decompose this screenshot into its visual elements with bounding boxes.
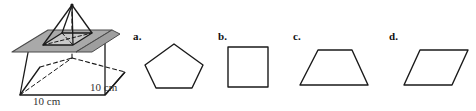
choice-d-label[interactable]: d. (389, 31, 398, 42)
figure-canvas (0, 0, 476, 111)
choice-b-label[interactable]: b. (218, 31, 227, 42)
dimension-label-base-edge: 10 cm (33, 96, 60, 107)
choice-d-parallelogram-shape[interactable] (404, 50, 468, 85)
base-hidden-diagonal (20, 58, 72, 95)
choice-a-pentagon-shape[interactable] (145, 44, 203, 88)
choice-c-trapezoid-shape[interactable] (300, 50, 368, 85)
choice-a-label[interactable]: a. (133, 31, 142, 42)
choice-c-label[interactable]: c. (293, 31, 301, 42)
dimension-label-right-edge: 10 cm (90, 82, 117, 93)
choice-b-square-shape[interactable] (228, 47, 268, 87)
apex-point (70, 3, 73, 6)
geometry-question-figure: 10 cm 10 cm a. b. c. d. (0, 0, 476, 111)
